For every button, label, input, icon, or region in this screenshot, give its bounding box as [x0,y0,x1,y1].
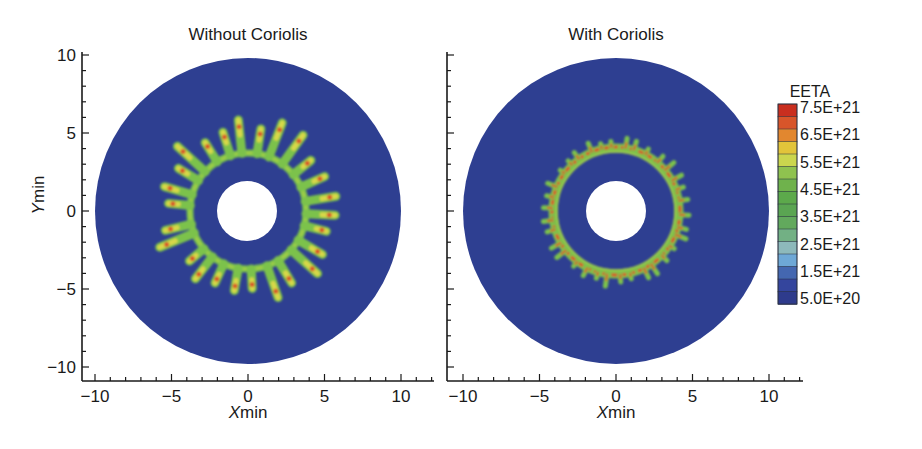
colorbar-label: 7.5E+21 [800,99,860,116]
colorbar-label: 6.5E+21 [800,126,860,143]
colorbar-label: 1.5E+21 [800,263,860,280]
colorbar-band [778,217,797,230]
colorbar-band [778,204,797,217]
colorbar-labels: 7.5E+216.5E+215.5E+214.5E+213.5E+212.5E+… [800,99,860,307]
y-tick-label: −5 [57,280,76,299]
x-axis-label-left: Xmin [228,403,268,422]
plot-title-right: With Coriolis [568,25,663,44]
colorbar-band [778,167,797,180]
x-tick-label: 5 [688,387,697,406]
y-tick-label: 0 [67,202,76,221]
colorbar-band [778,104,797,117]
x-axis-label-right: Xmin [596,403,636,422]
colorbar [778,104,797,305]
plot-with-coriolis: With Coriolis −10−50510 Xmin [447,25,803,422]
x-tick-label: −10 [81,387,110,406]
hole-right [586,181,646,241]
x-tick-label: 10 [760,387,779,406]
colorbar-band [778,292,797,305]
plot-without-coriolis: Without Coriolis −10−505101050−5−10 Xmin… [29,25,434,422]
x-tick-label: −5 [162,387,181,406]
x-tick-label: −10 [449,387,478,406]
colorbar-label: 3.5E+21 [800,208,860,225]
y-tick-label: 10 [57,46,76,65]
colorbar-label: 2.5E+21 [800,236,860,253]
x-axis-label-italic: X [596,403,609,422]
colorbar-band [778,117,797,130]
colorbar-band [778,242,797,255]
y-tick-label: 5 [67,124,76,143]
colorbar-label: 5.0E+20 [800,290,860,307]
x-tick-label: 10 [392,387,411,406]
colorbar-band [778,129,797,142]
colorbar-band [778,142,797,155]
plot-title-left: Without Coriolis [188,25,307,44]
chart-canvas: Without Coriolis −10−505101050−5−10 Xmin… [0,0,922,449]
colorbar-band [778,254,797,267]
colorbar-band [778,279,797,292]
colorbar-band [778,154,797,167]
colorbar-band [778,192,797,205]
y-axis-label-left: Ymin [29,176,48,215]
x-axis-label-italic: X [228,403,241,422]
colorbar-label: 4.5E+21 [800,181,860,198]
x-tick-label: −5 [530,387,549,406]
y-tick-label: −10 [47,358,76,377]
legend-title: EETA [790,83,831,100]
x-tick-label: 5 [320,387,329,406]
x-axis-label-rest: min [240,403,267,422]
colorbar-band [778,179,797,192]
colorbar-legend: EETA 7.5E+216.5E+215.5E+214.5E+213.5E+21… [778,83,860,307]
hole-left [217,181,277,241]
colorbar-band [778,267,797,280]
x-axis-label-rest: min [608,403,635,422]
y-axis-label-rest: min [29,176,48,203]
colorbar-band [778,229,797,242]
colorbar-label: 5.5E+21 [800,154,860,171]
